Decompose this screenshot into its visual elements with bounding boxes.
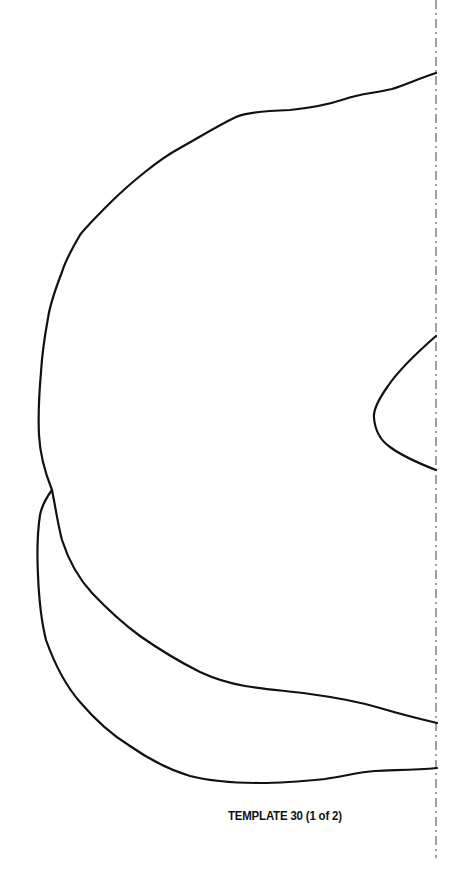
bottom-flap-outline [37,490,437,783]
template-label: TEMPLATE 30 (1 of 2) [228,808,342,823]
inner-notch-outline [374,336,436,470]
template-diagram [0,0,463,885]
main-body-outline [39,73,437,723]
